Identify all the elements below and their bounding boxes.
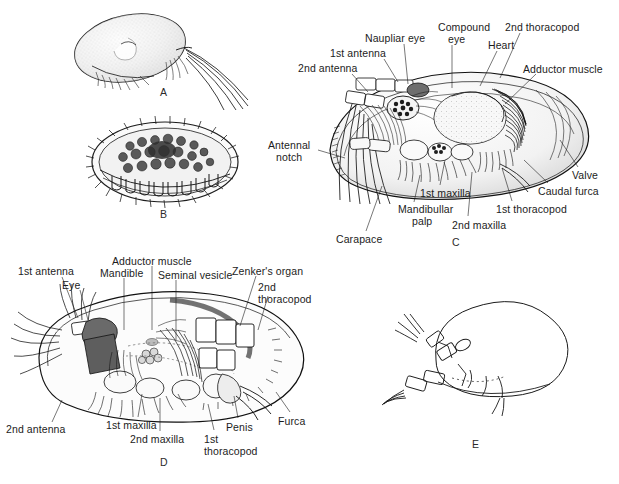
panel-letter-e: E (472, 438, 479, 450)
panel-letter-a: A (160, 86, 167, 98)
panel-letter-b: B (160, 208, 167, 220)
panel-c-label-compound: Compound (438, 22, 490, 34)
panel-d-label-1st: 1st (204, 434, 218, 446)
panel-c-label-adductor-muscle: Adductor muscle (523, 64, 603, 76)
panel-c-leader-10 (366, 186, 382, 231)
panel-c-label-notch: notch (276, 152, 302, 164)
panel-c-label-heart: Heart (488, 40, 514, 52)
panel-letter-d: D (160, 456, 168, 468)
panel-d-label-furca: Furca (278, 416, 305, 428)
panel-c-label-palp: palp (412, 216, 432, 228)
panel-letter-c: C (452, 236, 460, 248)
panel-c-label-2nd-antenna: 2nd antenna (298, 63, 358, 75)
panel-c-label-valve: Valve (572, 170, 598, 182)
panel-c-leader-1 (384, 59, 398, 82)
panel-c-label-antennal: Antennal (268, 140, 310, 152)
panel-c-label-2nd-thoracopod: 2nd thoracopod (505, 22, 579, 34)
panel-c-label-caudal-furca: Caudal furca (538, 186, 599, 198)
panel-d-label-seminal-vesicle: Seminal vesicle (158, 270, 232, 282)
panel-c-label-1st-thoracopod: 1st thoracopod (496, 204, 567, 216)
panel-c-label-1st-antenna: 1st antenna (330, 48, 386, 60)
panel-e-drawing (382, 302, 568, 416)
panel-d-label-1st-antenna: 1st antenna (18, 266, 74, 278)
panel-d-label-mandible: Mandible (100, 268, 143, 280)
panel-d-label-thoracopod: thoracopod (204, 446, 258, 458)
panel-d-label-eye: Eye (62, 280, 80, 292)
panel-c-label-1st-maxilla: 1st maxilla (420, 188, 471, 200)
panel-c-label-mandibullar: Mandibullar (398, 204, 453, 216)
panel-d-label-thoracopod: thoracopod (258, 294, 312, 306)
figure-plate: 2nd antenna1st antennaNaupliar eyeCompou… (0, 0, 619, 484)
panel-d-label-zenker-s-organ: Zenker's organ (232, 266, 303, 278)
panel-b-drawing (86, 116, 239, 208)
panel-c-label-carapace: Carapace (336, 234, 382, 246)
panel-c-leader-2 (404, 44, 408, 84)
panel-d-label-2nd: 2nd (258, 282, 276, 294)
panel-a-drawing (69, 5, 248, 110)
panel-d-label-penis: Penis (226, 422, 253, 434)
panel-c-label-2nd-maxilla: 2nd maxilla (452, 220, 506, 232)
panel-d-leader-8 (52, 400, 62, 422)
panel-d-label-2nd-antenna: 2nd antenna (6, 424, 66, 436)
panel-c-label-naupliar-eye: Naupliar eye (365, 33, 425, 45)
panel-d-label-1st-maxilla: 1st maxilla (106, 420, 157, 432)
panel-d-label-2nd-maxilla: 2nd maxilla (130, 434, 184, 446)
panel-c-label-eye: eye (448, 34, 465, 46)
panel-d-label-adductor-muscle: Adductor muscle (112, 256, 192, 268)
